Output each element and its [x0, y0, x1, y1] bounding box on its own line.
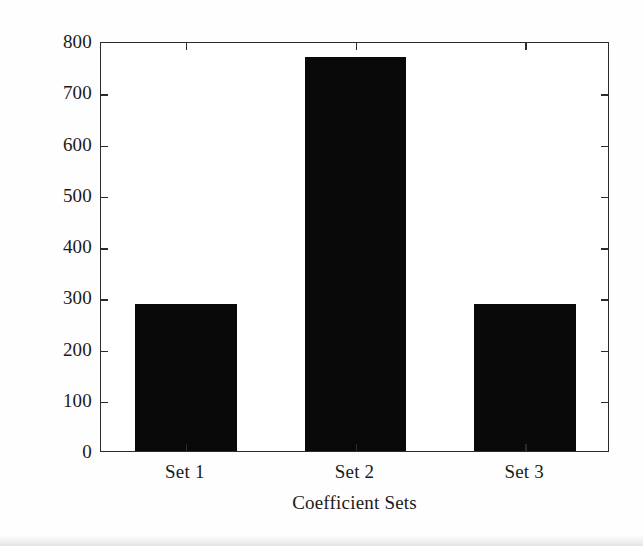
y-tick-left — [101, 402, 108, 404]
x-tick-label: Set 3 — [504, 461, 544, 483]
bar-set-1 — [135, 304, 237, 451]
y-tick-right — [601, 351, 608, 353]
y-tick-left — [101, 248, 108, 250]
x-tick-bottom — [186, 444, 188, 451]
y-tick-label: 700 — [63, 82, 92, 104]
x-tick-top — [186, 43, 188, 50]
y-tick-right — [601, 146, 608, 148]
bar-set-3 — [474, 304, 576, 451]
y-tick-label: 200 — [63, 339, 92, 361]
figure-page: 0100200300400500600700800 Network Lifeti… — [0, 0, 643, 546]
y-tick-label: 800 — [63, 31, 92, 53]
page-bottom-edge — [0, 536, 643, 546]
bars-layer — [101, 43, 608, 451]
y-tick-label: 300 — [63, 287, 92, 309]
bar-chart-figure: 0100200300400500600700800 Network Lifeti… — [0, 0, 643, 546]
y-tick-label: 600 — [63, 134, 92, 156]
y-tick-right — [601, 402, 608, 404]
y-tick-left — [101, 146, 108, 148]
y-tick-left — [101, 94, 108, 96]
y-tick-label: 100 — [63, 390, 92, 412]
x-tick-label: Set 1 — [165, 461, 205, 483]
y-tick-right — [601, 197, 608, 199]
y-tick-right — [601, 299, 608, 301]
plot-area — [100, 42, 609, 452]
y-tick-label: 0 — [82, 441, 92, 463]
y-tick-label: 500 — [63, 185, 92, 207]
x-tick-label: Set 2 — [335, 461, 375, 483]
x-tick-top — [356, 43, 358, 50]
y-tick-right — [601, 248, 608, 250]
x-tick-top — [525, 43, 527, 50]
y-tick-right — [601, 94, 608, 96]
x-axis-tick-labels: Set 1Set 2Set 3 — [100, 461, 609, 487]
bar-set-2 — [305, 57, 407, 451]
y-tick-label: 400 — [63, 236, 92, 258]
x-tick-bottom — [356, 444, 358, 451]
x-tick-bottom — [525, 444, 527, 451]
y-axis-title: Network Lifetime (s) — [8, 0, 36, 82]
y-tick-left — [101, 197, 108, 199]
y-tick-left — [101, 351, 108, 353]
y-axis-tick-labels: 0100200300400500600700800 — [0, 42, 92, 452]
x-axis-title: Coefficient Sets — [100, 492, 609, 514]
y-tick-left — [101, 299, 108, 301]
